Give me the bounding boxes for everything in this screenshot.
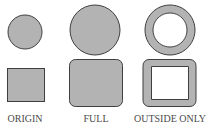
origin-circle xyxy=(8,15,42,49)
outside-only-rounded-square-frame xyxy=(143,60,196,107)
full-circle xyxy=(70,5,120,55)
full-rounded-square xyxy=(70,60,123,107)
label-origin: ORIGIN xyxy=(0,113,50,124)
outside-only-ring xyxy=(145,5,195,55)
origin-square xyxy=(8,69,45,102)
label-outside-only: OUTSIDE ONLY xyxy=(128,113,212,124)
label-full: FULL xyxy=(70,113,122,124)
